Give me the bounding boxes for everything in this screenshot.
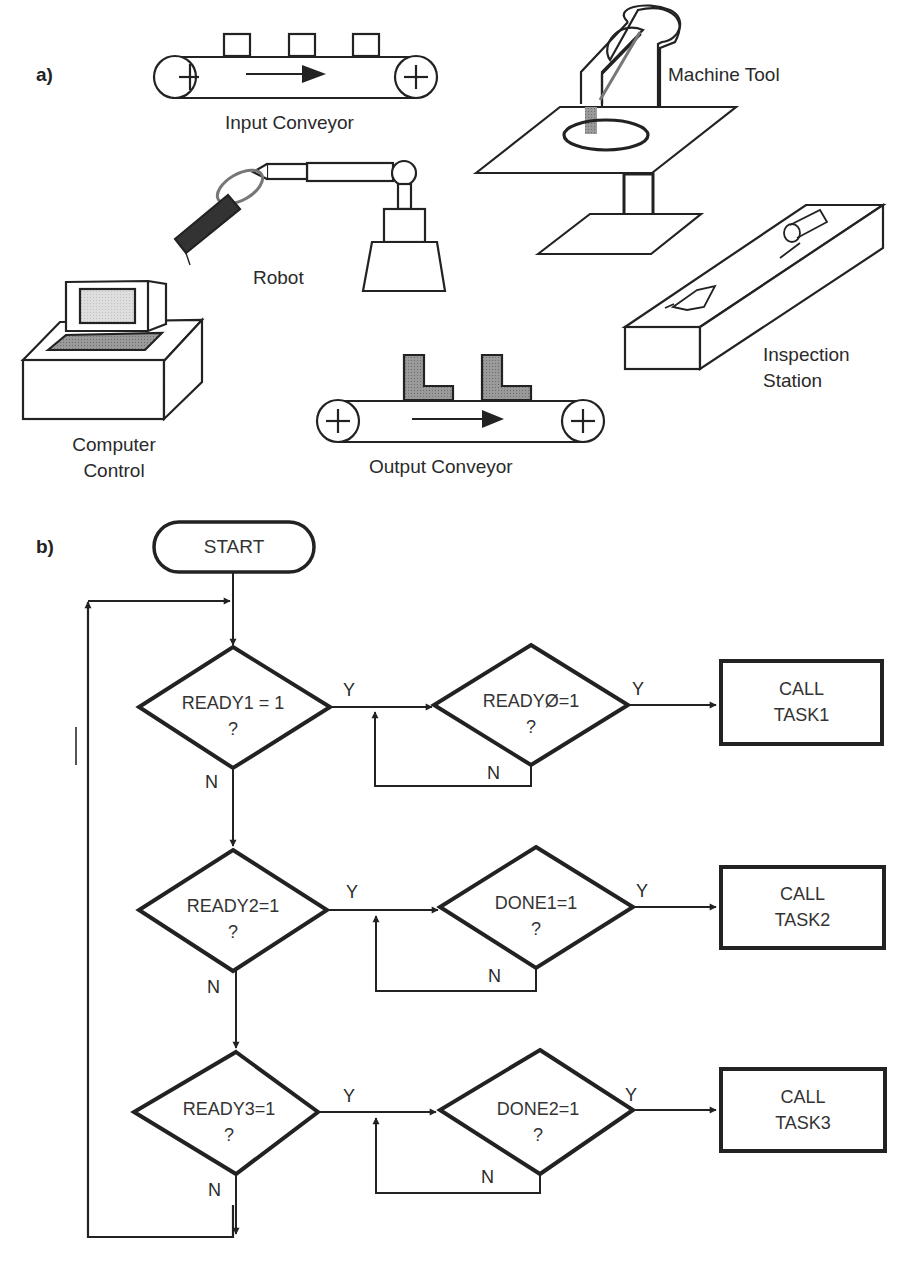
row2-check-yes: Y [346,882,358,903]
task2-line2: TASK2 [721,907,884,933]
output-conveyor-label: Output Conveyor [369,454,513,480]
decision-ready0-text: READYØ=1 ? [456,688,606,740]
row1-check-yes: Y [343,680,355,701]
computer-control-icon [23,281,202,419]
decision-ready1-text: READY1 = 1 ? [160,690,306,742]
computer-control-label: Computer Control [66,432,162,484]
row3-wait-yes: Y [625,1085,637,1106]
task1-text: CALL TASK1 [721,676,882,728]
panel-b-label: b) [36,536,54,558]
robot-label: Robot [253,265,304,291]
decision-done2-line1: DONE2=1 [465,1096,611,1122]
task2-text: CALL TASK2 [721,881,884,933]
decision-done2-text: DONE2=1 ? [465,1096,611,1148]
inspection-station-label-line2: Station [763,368,850,394]
row2-wait-yes: Y [636,881,648,902]
decision-ready3-line1: READY3=1 [156,1096,302,1122]
row3-check-no: N [208,1180,221,1201]
row1-wait-yes: Y [632,679,644,700]
output-conveyor-icon [317,355,604,442]
row1-wait-no: N [487,763,500,784]
inspection-station-label: Inspection Station [763,342,850,394]
task2-line1: CALL [721,881,884,907]
decision-ready1-line2: ? [160,716,306,742]
computer-control-label-line2: Control [66,458,162,484]
task3-line1: CALL [721,1084,885,1110]
decision-ready3-text: READY3=1 ? [156,1096,302,1148]
decision-ready0-line2: ? [456,714,606,740]
decision-ready0-line1: READYØ=1 [456,688,606,714]
row3-check-yes: Y [343,1086,355,1107]
row1-check-no: N [205,772,218,793]
panel-a-label: a) [36,64,53,86]
decision-done1-line1: DONE1=1 [463,890,609,916]
start-label: START [154,534,314,560]
row2-wait-no: N [488,966,501,987]
decision-ready2-text: READY2=1 ? [160,893,306,945]
decision-ready1-line1: READY1 = 1 [160,690,306,716]
figure-canvas [0,0,915,1264]
task3-text: CALL TASK3 [721,1084,885,1136]
inspection-station-label-line1: Inspection [763,342,850,368]
decision-ready2-line2: ? [160,919,306,945]
input-conveyor-icon [154,34,437,98]
task1-line2: TASK1 [721,702,882,728]
row3-wait-no: N [481,1167,494,1188]
input-conveyor-label: Input Conveyor [225,110,354,136]
decision-done1-text: DONE1=1 ? [463,890,609,942]
decision-done2-line2: ? [465,1122,611,1148]
robot-icon [175,161,445,291]
machine-tool-icon [476,6,736,254]
decision-done1-line2: ? [463,916,609,942]
decision-ready3-line2: ? [156,1122,302,1148]
machine-tool-label: Machine Tool [668,62,780,88]
row2-check-no: N [207,977,220,998]
task1-line1: CALL [721,676,882,702]
computer-control-label-line1: Computer [66,432,162,458]
task3-line2: TASK3 [721,1110,885,1136]
decision-ready2-line1: READY2=1 [160,893,306,919]
